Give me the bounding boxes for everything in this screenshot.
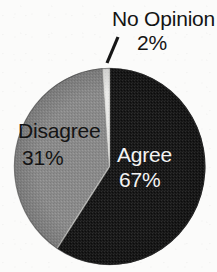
- slice-value-no-opinion: 2%: [137, 31, 167, 54]
- slice-value-agree: 67%: [119, 168, 160, 191]
- slice-label-no-opinion: No Opinion: [112, 7, 215, 30]
- slice-label-disagree: Disagree: [18, 119, 100, 142]
- pie-chart: No Opinion 2% Disagree 31% Agree 67%: [0, 0, 217, 272]
- slice-value-disagree: 31%: [22, 146, 63, 169]
- no-opinion-leader-line-icon: [104, 36, 122, 64]
- slice-label-agree: Agree: [117, 143, 172, 166]
